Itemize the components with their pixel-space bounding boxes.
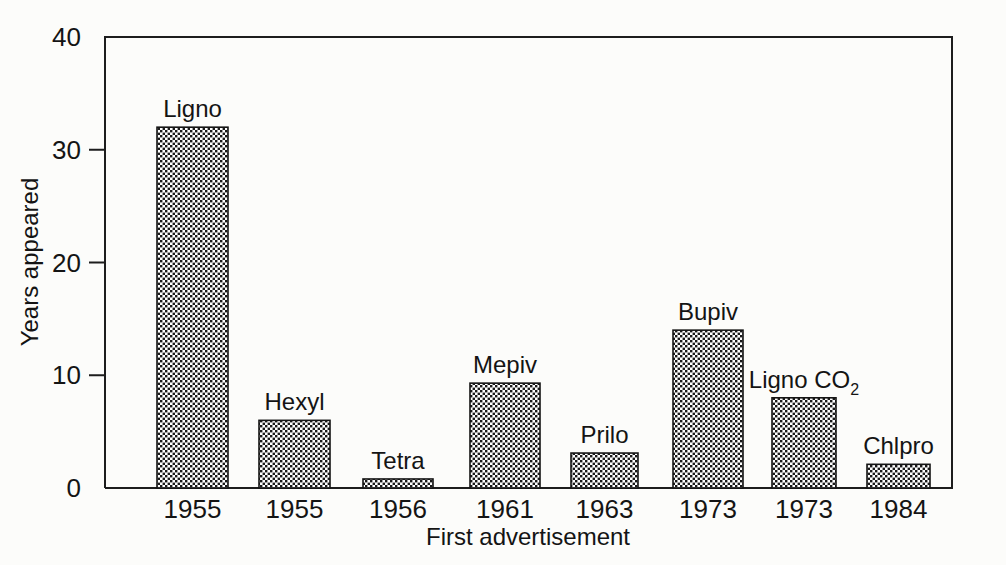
x-tick-label: 1963 bbox=[576, 494, 634, 524]
bar-label: Mepiv bbox=[473, 351, 537, 378]
x-axis-title: First advertisement bbox=[426, 523, 630, 550]
bar-label: Ligno CO2 bbox=[749, 366, 859, 398]
x-tick-label: 1973 bbox=[679, 494, 737, 524]
bar-tetra bbox=[363, 479, 433, 488]
bars-group: LignoHexylTetraMepivPriloBupivLigno CO2C… bbox=[157, 95, 934, 488]
bar-mepiv bbox=[470, 383, 540, 488]
x-tick-label: 1956 bbox=[369, 494, 427, 524]
bar-label: Bupiv bbox=[678, 298, 738, 325]
bar-ligno bbox=[157, 127, 228, 488]
x-tick-label: 1984 bbox=[870, 494, 928, 524]
bar-bupiv bbox=[673, 330, 743, 488]
y-tick-label: 40 bbox=[52, 22, 81, 52]
y-axis-title: Years appeared bbox=[16, 178, 43, 347]
y-tick-label: 30 bbox=[52, 135, 81, 165]
bar-hexyl bbox=[259, 420, 330, 488]
x-tick-label: 1955 bbox=[164, 494, 222, 524]
x-tick-label: 1973 bbox=[775, 494, 833, 524]
bar-ligno-co2 bbox=[772, 398, 836, 488]
x-tick-label: 1955 bbox=[266, 494, 324, 524]
x-axis-ticks: 19551955195619611963197319731984 bbox=[164, 494, 928, 524]
bar-label: Tetra bbox=[371, 447, 425, 474]
y-tick-label: 0 bbox=[67, 473, 81, 503]
x-tick-label: 1961 bbox=[476, 494, 534, 524]
bar-label: Ligno bbox=[163, 95, 222, 122]
bar-chlpro bbox=[867, 464, 930, 488]
bar-prilo bbox=[571, 453, 638, 488]
bar-label: Hexyl bbox=[264, 388, 324, 415]
y-axis-ticks: 010203040 bbox=[52, 22, 105, 503]
bar-chart: 010203040 LignoHexylTetraMepivPriloBupiv… bbox=[0, 0, 1006, 565]
chart-figure: 010203040 LignoHexylTetraMepivPriloBupiv… bbox=[0, 0, 1006, 565]
bar-label: Chlpro bbox=[863, 432, 934, 459]
y-tick-label: 20 bbox=[52, 248, 81, 278]
y-tick-label: 10 bbox=[52, 360, 81, 390]
bar-label: Prilo bbox=[580, 421, 628, 448]
